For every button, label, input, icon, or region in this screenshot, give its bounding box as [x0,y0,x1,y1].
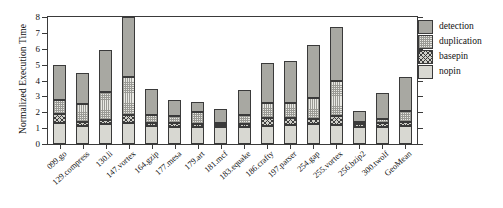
bar-segment-duplication [376,119,389,124]
x-axis-tick [244,144,245,149]
legend-item-duplication: duplication [418,34,503,49]
y-axis-tick-label: 3 [36,92,41,101]
bar-segment-basepin [238,124,251,126]
bar-segment-detection [376,93,389,118]
y-axis-tick [42,33,48,34]
y-axis-tick [42,128,48,129]
bar-segment-nopin [399,126,412,144]
bar-segment-basepin [330,116,343,125]
x-axis-tick [152,144,153,149]
bar-segment-detection [238,90,251,115]
legend-item-basepin: basepin [418,49,503,64]
x-axis-tick [60,144,61,149]
bar-segment-detection [168,100,181,116]
bar-segment-detection [99,50,112,92]
bar-segment-detection [76,73,89,104]
bar-segment-nopin [122,123,135,144]
legend-label: detection [439,21,474,32]
bar-segment-basepin [399,122,412,126]
legend-item-nopin: nopin [418,64,503,79]
y-axis-tick [42,17,48,18]
y-axis-tick [42,81,48,82]
legend-swatch-basepin [418,50,433,64]
y-axis-tick-right [417,96,423,97]
y-axis-tick [42,144,48,145]
bar-segment-nopin [238,127,251,144]
chart-legend: detectionduplicationbasepinnopin [418,19,503,79]
legend-label: nopin [439,66,461,77]
y-axis-tick-label: 8 [36,13,41,22]
bar-segment-basepin [191,124,204,126]
bar-segment-duplication [53,100,66,113]
bar-segment-duplication [330,81,343,117]
y-axis-tick [42,65,48,66]
bar-segment-basepin [261,118,274,126]
bar-segment-nopin [376,127,389,144]
legend-item-detection: detection [418,19,503,34]
x-axis-tick [290,144,291,149]
bar-segment-basepin [353,124,366,126]
bar-segment-duplication [353,122,366,124]
legend-label: basepin [439,51,468,62]
y-axis-tick-label: 0 [36,140,41,149]
y-axis-title: Normalized Execution Time [18,4,28,154]
bar-segment-nopin [214,127,227,144]
y-axis-tick-right [417,128,423,129]
bar-segment-basepin [122,115,135,124]
bar-segment-nopin [76,126,89,144]
bar-segment-nopin [191,127,204,144]
bar-segment-basepin [99,120,112,124]
y-axis-tick-label: 2 [36,108,41,117]
plot-inner: 012345678 [48,17,417,144]
y-axis-tick [42,49,48,50]
x-axis-tick [106,144,107,149]
legend-swatch-nopin [418,65,433,79]
x-axis-tick [359,144,360,149]
bar-segment-detection [284,61,297,102]
y-axis-tick [42,112,48,113]
y-axis-tick-label: 7 [36,28,41,37]
bar-segment-basepin [376,123,389,126]
bar-segment-detection [122,17,135,77]
bar-segment-duplication [99,92,112,121]
bar-segment-duplication [214,123,227,125]
y-axis-tick-right [417,81,423,82]
bar-segment-detection [307,45,320,98]
x-axis-tick [83,144,84,149]
x-axis-tick [221,144,222,149]
y-axis-tick-label: 1 [36,124,41,133]
bar-segment-duplication [122,77,135,114]
y-axis-tick-right [417,112,423,113]
bar-segment-basepin [76,122,89,126]
bar-segment-duplication [261,103,274,118]
chart-figure: Normalized Execution Time 012345678 dete… [0,0,503,208]
legend-swatch-detection [418,20,433,34]
bar-segment-basepin [284,118,297,125]
legend-label: duplication [439,36,482,47]
bar-segment-nopin [53,123,66,144]
x-axis-tick [198,144,199,149]
x-axis-tick [267,144,268,149]
bar-segment-duplication [191,112,204,124]
y-axis-tick [42,96,48,97]
bar-segment-duplication [284,103,297,118]
bar-segment-duplication [399,111,412,122]
bar-segment-nopin [168,127,181,144]
bar-segment-basepin [145,123,158,125]
x-axis-tick [405,144,406,149]
bar-segment-detection [145,89,158,114]
bar-segment-basepin [168,123,181,127]
bar-segment-duplication [307,98,320,119]
bar-segment-nopin [307,124,320,144]
bar-segment-basepin [53,114,66,124]
bar-segment-detection [353,111,366,122]
bar-segment-detection [399,77,412,110]
bar-segment-nopin [261,126,274,144]
y-axis-tick-label: 4 [36,76,41,85]
x-axis-tick [313,144,314,149]
y-axis-tick-label: 6 [36,44,41,53]
bar-segment-detection [261,63,274,103]
bar-segment-nopin [145,126,158,144]
bar-segment-duplication [76,104,89,121]
bar-segment-basepin [214,125,227,127]
